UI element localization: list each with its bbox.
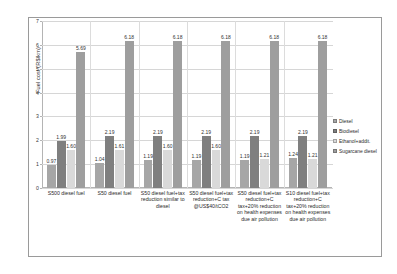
bar-slot: 6.18 — [270, 41, 279, 188]
y-axis-tick-label: 7 — [36, 18, 39, 24]
y-axis-tick-label: 2 — [36, 137, 39, 143]
bar-slot: 1.21 — [308, 159, 317, 188]
bar-slot: 1.19 — [144, 160, 153, 188]
gridline — [42, 188, 333, 189]
bar-value-label: 1.19 — [240, 153, 250, 159]
bar[interactable]: 1.04 — [95, 163, 104, 188]
bar[interactable]: 1.60 — [163, 150, 172, 188]
bar-slot: 1.99 — [57, 141, 66, 188]
bar-value-label: 6.18 — [173, 34, 183, 40]
bar-slot: 0.97 — [47, 165, 56, 188]
legend-label: Biodiesel — [339, 129, 359, 134]
bar[interactable]: 6.18 — [125, 41, 134, 188]
x-axis-tick-label: S500 diesel fuel — [42, 190, 90, 222]
bar-slot: 2.19 — [153, 136, 162, 188]
bar-group: 1.192.191.606.18 — [139, 21, 187, 188]
bar-slot: 1.61 — [115, 150, 124, 188]
bar-value-label: 1.24 — [288, 151, 298, 157]
bar-slot: 6.18 — [125, 41, 134, 188]
bar[interactable]: 2.19 — [250, 136, 259, 188]
bar-value-label: 6.18 — [124, 34, 134, 40]
bar-group: 1.042.191.616.18 — [90, 21, 138, 188]
bar-slot: 5.69 — [76, 52, 85, 188]
bar-slot: 1.19 — [240, 160, 249, 188]
bar-slot: 6.18 — [173, 41, 182, 188]
bar-value-label: 1.60 — [66, 143, 76, 149]
bar-slot: 6.18 — [318, 41, 327, 188]
bar-value-label: 2.19 — [250, 129, 260, 135]
bar[interactable]: 5.69 — [76, 52, 85, 188]
bar-slot: 1.24 — [289, 158, 298, 188]
bar-slot: 1.60 — [163, 150, 172, 188]
bar[interactable]: 6.18 — [221, 41, 230, 188]
bar-slot: 2.19 — [298, 136, 307, 188]
bar-value-label: 1.99 — [56, 134, 66, 140]
bar[interactable]: 1.19 — [144, 160, 153, 188]
bar[interactable]: 2.19 — [153, 136, 162, 188]
legend-swatch-icon — [333, 119, 337, 123]
bar-slot: 2.19 — [202, 136, 211, 188]
bar-value-label: 2.19 — [201, 129, 211, 135]
legend-label: Sugarcane diesel — [339, 149, 377, 154]
bar-slot: 1.04 — [95, 163, 104, 188]
bar-slot: 2.19 — [105, 136, 114, 188]
x-axis-tick-label: S10 diesel fuel+tax reduction+C tax+20% … — [284, 190, 332, 222]
bar[interactable]: 1.19 — [192, 160, 201, 188]
bar-group: 1.192.191.606.18 — [187, 21, 235, 188]
bar[interactable]: 2.19 — [202, 136, 211, 188]
bar-slot: 1.19 — [192, 160, 201, 188]
bar-value-label: 1.19 — [192, 153, 202, 159]
bar-value-label: 2.19 — [105, 129, 115, 135]
bar-value-label: 1.21 — [308, 152, 318, 158]
bar-value-label: 6.18 — [221, 34, 231, 40]
bar[interactable]: 1.19 — [240, 160, 249, 188]
y-axis-tick-mark — [40, 188, 42, 189]
legend-item[interactable]: Diesel — [333, 116, 381, 126]
bar[interactable]: 2.19 — [298, 136, 307, 188]
bar[interactable]: 6.18 — [173, 41, 182, 188]
bar-value-label: 0.97 — [47, 158, 57, 164]
bar-value-label: 2.19 — [298, 129, 308, 135]
plot-area: 01234567 0.971.991.605.691.042.191.616.1… — [42, 21, 332, 188]
y-axis-tick-label: 6 — [36, 42, 39, 48]
bar[interactable]: 6.18 — [270, 41, 279, 188]
bar[interactable]: 2.19 — [105, 136, 114, 188]
bar-value-label: 2.19 — [153, 129, 163, 135]
legend-item[interactable]: Biodiesel — [333, 126, 381, 136]
y-axis-tick-label: 0 — [36, 185, 39, 191]
bar-group: 1.192.191.216.18 — [235, 21, 283, 188]
legend-item[interactable]: Sugarcane diesel — [333, 146, 381, 156]
legend-swatch-icon — [333, 129, 337, 133]
chart-legend: DieselBiodieselEthanol+addit.Sugarcane d… — [333, 116, 381, 156]
bar-value-label: 6.18 — [269, 34, 279, 40]
bar[interactable]: 1.99 — [57, 141, 66, 188]
bar-value-label: 1.60 — [163, 143, 173, 149]
chart-figure: Fuel cost (R$/km) 01234567 0.971.991.605… — [0, 0, 397, 274]
bar-value-label: 1.60 — [211, 143, 221, 149]
x-axis-tick-label: S50 diesel fuel+tax reduction+C tax+20% … — [235, 190, 283, 222]
bar[interactable]: 1.21 — [260, 159, 269, 188]
bar[interactable]: 1.60 — [67, 150, 76, 188]
x-axis-tick-labels: S500 diesel fuelS50 diesel fuelS50 diese… — [42, 190, 332, 222]
bar-slot: 2.19 — [250, 136, 259, 188]
bar[interactable]: 1.60 — [212, 150, 221, 188]
y-axis-tick-label: 3 — [36, 113, 39, 119]
bar[interactable]: 1.24 — [289, 158, 298, 188]
bar-group: 0.971.991.605.69 — [42, 21, 90, 188]
x-axis-tick-label: S50 diesel fuel+tax reduction similar to… — [139, 190, 187, 222]
bar[interactable]: 1.21 — [308, 159, 317, 188]
y-axis-tick-label: 4 — [36, 90, 39, 96]
bar[interactable]: 1.61 — [115, 150, 124, 188]
legend-item[interactable]: Ethanol+addit. — [333, 136, 381, 146]
legend-label: Ethanol+addit. — [339, 139, 370, 144]
bar-value-label: 1.61 — [115, 143, 125, 149]
bar-value-label: 6.18 — [318, 34, 328, 40]
legend-label: Diesel — [339, 119, 353, 124]
bar[interactable]: 0.97 — [47, 165, 56, 188]
bar-value-label: 1.21 — [260, 152, 270, 158]
legend-swatch-icon — [333, 149, 337, 153]
legend-swatch-icon — [333, 139, 337, 143]
bar[interactable]: 6.18 — [318, 41, 327, 188]
bar-groups: 0.971.991.605.691.042.191.616.181.192.19… — [42, 21, 332, 188]
bar-value-label: 1.04 — [95, 156, 105, 162]
